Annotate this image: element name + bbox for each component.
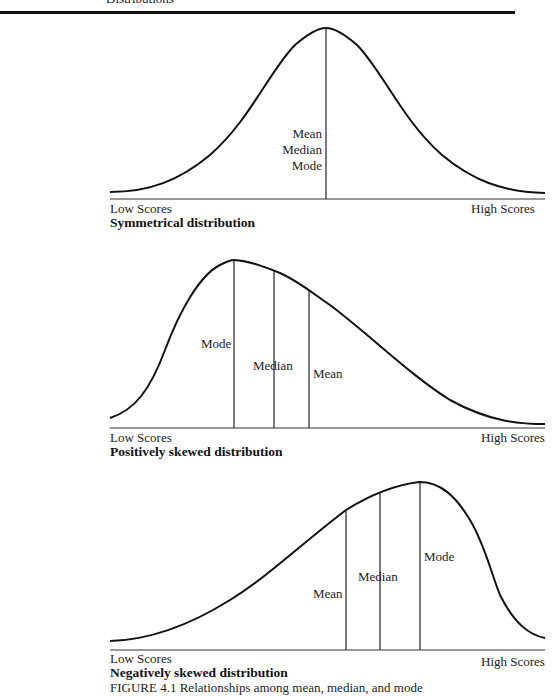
median-label: Median: [277, 141, 322, 158]
median-label: Median: [253, 357, 293, 374]
mean-label: Mean: [313, 365, 343, 382]
mode-label: Mode: [424, 548, 454, 565]
high-scores-label: High Scores: [481, 430, 545, 446]
panel-title: Symmetrical distribution: [110, 215, 255, 231]
panel-title: Positively skewed distribution: [110, 444, 283, 460]
figure-caption: FIGURE 4.1 Relationships among mean, med…: [110, 680, 423, 696]
high-scores-label: High Scores: [471, 201, 535, 217]
mode-label: Mode: [287, 157, 322, 174]
high-scores-label: High Scores: [481, 654, 545, 670]
negatively-skewed-curve-figure: [0, 460, 553, 680]
mode-label: Mode: [201, 335, 231, 352]
median-label: Median: [358, 568, 398, 585]
mean-label: Mean: [290, 125, 322, 142]
symmetrical-distribution-panel: Mean Median Mode Low Scores High Scores …: [0, 0, 553, 240]
positively-skewed-distribution-panel: Mode Median Mean Low Scores High Scores …: [0, 240, 553, 460]
panel-title: Negatively skewed distribution: [110, 665, 288, 681]
positively-skewed-curve-figure: [0, 240, 553, 460]
mean-label: Mean: [313, 585, 343, 602]
negatively-skewed-distribution-panel: Mean Median Mode Low Scores High Scores …: [0, 460, 553, 680]
